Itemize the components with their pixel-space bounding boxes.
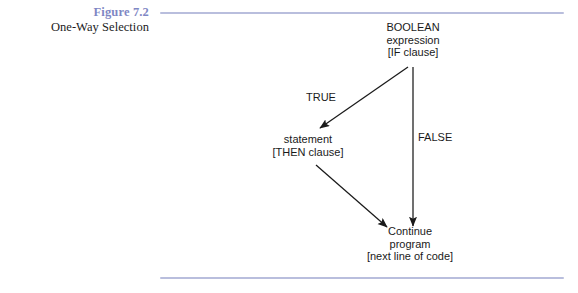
node-continue-line-1: Continue xyxy=(330,225,490,238)
node-statement: statement [THEN clause] xyxy=(228,133,388,158)
node-boolean-line-2: expression xyxy=(333,34,493,47)
node-boolean-expression: BOOLEAN expression [IF clause] xyxy=(333,21,493,59)
node-statement-line-2: [THEN clause] xyxy=(228,146,388,159)
flowchart-diagram: BOOLEAN expression [IF clause] statement… xyxy=(0,0,578,293)
node-continue-line-2: program xyxy=(330,238,490,251)
node-boolean-line-1: BOOLEAN xyxy=(333,21,493,34)
node-statement-line-1: statement xyxy=(228,133,388,146)
edge-label-false: FALSE xyxy=(418,131,452,143)
node-continue-line-3: [next line of code] xyxy=(330,250,490,263)
node-boolean-line-3: [IF clause] xyxy=(333,46,493,59)
then-arrow xyxy=(316,165,387,227)
figure-page: Figure 7.2 One-Way Selection BOOLEAN exp… xyxy=(0,0,578,293)
edge-label-true: TRUE xyxy=(306,91,336,103)
node-continue-program: Continue program [next line of code] xyxy=(330,225,490,263)
